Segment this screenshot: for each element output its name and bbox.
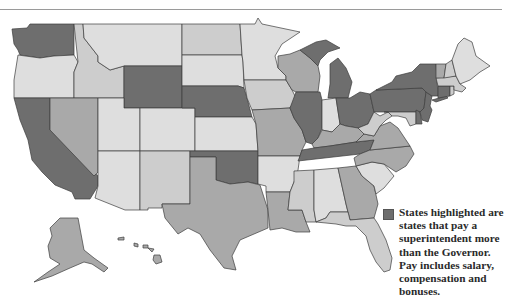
state-alaska[interactable] (34, 218, 108, 282)
state-south-dakota[interactable] (182, 55, 244, 88)
state-new-mexico[interactable] (140, 151, 190, 210)
state-arizona[interactable] (95, 151, 140, 210)
state-florida[interactable] (316, 212, 392, 272)
state-north-dakota[interactable] (182, 24, 242, 55)
legend-text: States highlighted are states that pay a… (399, 206, 510, 298)
legend-swatch (383, 209, 394, 220)
state-maine[interactable] (452, 38, 490, 84)
state-oregon[interactable] (14, 55, 78, 98)
state-pennsylvania[interactable] (370, 88, 426, 112)
state-kansas[interactable] (195, 117, 258, 151)
state-iowa[interactable] (244, 80, 296, 110)
state-wyoming[interactable] (124, 66, 182, 108)
state-colorado[interactable] (140, 108, 195, 151)
state-connecticut[interactable] (438, 86, 450, 98)
state-washington[interactable] (12, 24, 74, 58)
state-rhode-island[interactable] (450, 86, 454, 96)
state-hawaii[interactable] (118, 237, 162, 264)
